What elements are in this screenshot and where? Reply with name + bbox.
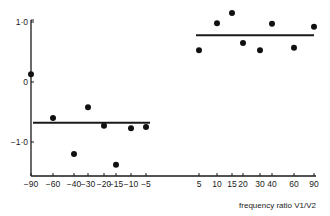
- x-tick-label: 60: [289, 179, 299, 189]
- x-tick-label: 40: [267, 179, 277, 189]
- data-point: [229, 10, 235, 16]
- data-points: [28, 10, 317, 168]
- x-tick-label: 10: [212, 179, 222, 189]
- data-point: [113, 162, 119, 168]
- data-point: [101, 123, 107, 129]
- x-tick-label: 90: [309, 179, 319, 189]
- x-tick-label: −90: [24, 179, 39, 189]
- y-tick-label: −1·0: [11, 137, 29, 147]
- data-point: [196, 47, 202, 53]
- data-point: [28, 71, 34, 77]
- x-tick-label: −5: [141, 179, 151, 189]
- data-point: [240, 40, 246, 46]
- data-point: [291, 45, 297, 51]
- data-point: [50, 115, 56, 121]
- data-point: [85, 104, 91, 110]
- y-tick-label: 1·0: [16, 17, 29, 27]
- x-tick-label: −60: [46, 179, 61, 189]
- axes: 1·00−1·0−90−60−40−30−20−15−10−5510152030…: [11, 17, 319, 189]
- x-tick-label: 15: [227, 179, 237, 189]
- scatter-chart: 1·00−1·0−90−60−40−30−20−15−10−5510152030…: [0, 0, 330, 216]
- data-point: [311, 24, 317, 30]
- x-tick-label: 20: [238, 179, 248, 189]
- x-tick-label: −40: [67, 179, 82, 189]
- data-point: [71, 151, 77, 157]
- data-point: [257, 47, 263, 53]
- data-point: [269, 21, 275, 27]
- data-point: [214, 20, 220, 26]
- x-tick-label: −10: [124, 179, 139, 189]
- y-tick-label: 0: [23, 77, 28, 87]
- x-tick-label: −30: [81, 179, 96, 189]
- x-tick-label: 30: [255, 179, 265, 189]
- x-tick-label: 5: [197, 179, 202, 189]
- x-tick-label: −15: [109, 179, 124, 189]
- data-point: [143, 124, 149, 130]
- data-point: [128, 125, 134, 131]
- x-axis-label: frequency ratio V1/V2: [239, 201, 316, 210]
